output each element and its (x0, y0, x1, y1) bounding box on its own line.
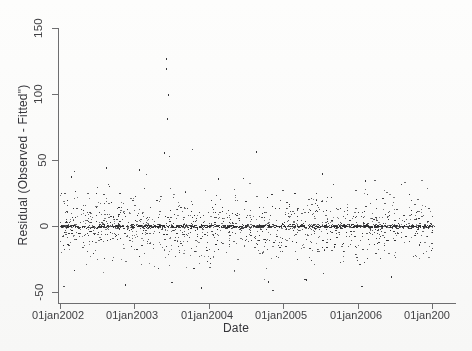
x-axis-title: Date (0, 321, 472, 335)
y-axis-title: Residual (Observed - Fitted") (16, 50, 30, 280)
x-axis-tick-label: 01jan2005 (255, 309, 307, 321)
scatter-plot-figure: -50050100150 01jan200201jan200301jan2004… (0, 0, 472, 351)
x-axis-tick-label: 01jan2004 (181, 309, 233, 321)
y-axis-tick-label: 150 (0, 22, 50, 34)
x-axis-tick-label: 01jan2006 (330, 309, 382, 321)
x-axis-tick-label: 01jan2003 (106, 309, 158, 321)
plot-area: -50050100150 01jan200201jan200301jan2004… (0, 0, 472, 351)
y-axis-tick (52, 226, 58, 227)
y-axis-tick (52, 94, 58, 95)
x-axis-tick-label: 01jan200 (404, 309, 450, 321)
y-axis-tick-label: -50 (0, 286, 50, 298)
x-axis-line (58, 303, 456, 304)
y-axis-tick (52, 292, 58, 293)
y-axis-tick (52, 28, 58, 29)
y-axis-line (58, 28, 59, 304)
y-axis-tick (52, 160, 58, 161)
x-axis-tick-label: 01jan2002 (32, 309, 84, 321)
scatter-points-layer (0, 0, 472, 351)
